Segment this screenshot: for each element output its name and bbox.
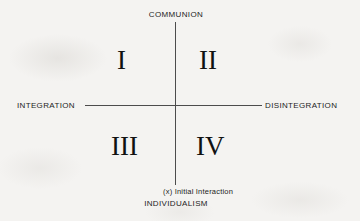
vertical-axis-line (175, 22, 176, 185)
quadrant-numeral-i: I (117, 47, 126, 74)
quadrant-numeral-ii: II (199, 47, 217, 74)
quadrant-numeral-iv: IV (196, 133, 225, 160)
axis-label-integration: INTEGRATION (17, 101, 75, 110)
axis-label-individualism: INDIVIDUALISM (0, 199, 356, 208)
quadrant-numeral-iii: III (111, 133, 138, 160)
axis-label-disintegration: DISINTEGRATION (265, 101, 337, 110)
annotation-initial-interaction: (x) Initial Interaction (163, 187, 233, 196)
axis-label-communion: COMMUNION (0, 10, 356, 19)
quadrant-diagram: COMMUNION INTEGRATION DISINTEGRATION IND… (0, 0, 360, 221)
horizontal-axis-line (85, 105, 262, 106)
